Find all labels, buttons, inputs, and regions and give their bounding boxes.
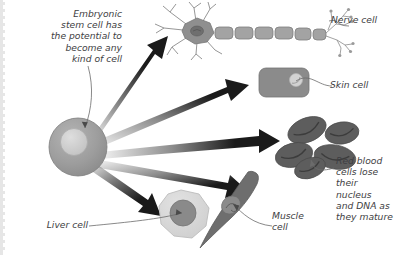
caption-red-blood-cells: Red blood cells lose their nucleus and D… (336, 155, 394, 222)
caption-liver-cell: Liver cell (22, 219, 88, 230)
caption-nerve-cell: Nerve cell (331, 14, 393, 25)
nerve-cell (155, 2, 355, 60)
caption-stem-cell: Embryonic stem cell has the potential to… (8, 8, 122, 64)
stem-cell (49, 118, 107, 176)
liver-cell (159, 190, 209, 238)
arrow-to-skin (96, 79, 249, 148)
page-perforated-edge (0, 0, 5, 255)
skin-cell (259, 68, 309, 97)
caption-skin-cell: Skin cell (330, 79, 392, 90)
diagram-page: Embryonic stem cell has the potential to… (0, 0, 394, 255)
caption-muscle-cell: Muscle cell (272, 210, 324, 232)
